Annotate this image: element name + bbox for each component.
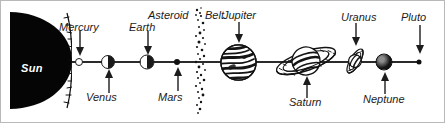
label-mercury: Mercury — [59, 21, 99, 33]
asteroid-belt-dots — [187, 14, 213, 114]
planet-earth — [140, 55, 155, 70]
sun-label: Sun — [21, 62, 43, 74]
label-saturn: Saturn — [289, 96, 321, 108]
planet-venus — [101, 55, 115, 69]
uranus-leader-arrow — [349, 23, 363, 47]
planet-jupiter — [220, 44, 257, 81]
solar-system-diagram: Sun Mercury Venus Earth Mars — [0, 0, 445, 123]
planet-mercury — [75, 58, 83, 66]
mars-leader-arrow — [171, 67, 185, 91]
label-belt: Belt — [205, 9, 224, 21]
pluto-leader-arrow — [413, 25, 427, 55]
planet-mars — [174, 59, 180, 65]
label-jupiter: Jupiter — [223, 9, 256, 21]
label-neptune: Neptune — [363, 93, 405, 105]
saturn-leader-arrow — [300, 76, 314, 98]
asteroid-belt — [187, 14, 213, 114]
label-earth: Earth — [129, 21, 155, 33]
asteroid-belt-top-dots — [192, 6, 204, 18]
planet-neptune — [376, 54, 393, 71]
planet-uranus — [340, 44, 370, 78]
label-uranus: Uranus — [341, 11, 376, 23]
neptune-leader-arrow — [378, 72, 392, 94]
label-mars: Mars — [158, 91, 182, 103]
earth-leader-arrow — [141, 31, 155, 56]
planet-pluto — [417, 60, 422, 65]
uranus-with-rings — [340, 44, 370, 78]
label-pluto: Pluto — [401, 11, 426, 23]
jupiter-leader-arrow — [232, 22, 246, 44]
mercury-leader-arrow — [73, 31, 87, 57]
label-venus: Venus — [86, 91, 117, 103]
venus-leader-arrow — [102, 69, 116, 93]
label-asteroid: Asteroid — [148, 9, 188, 21]
jupiter-bands — [220, 44, 257, 81]
